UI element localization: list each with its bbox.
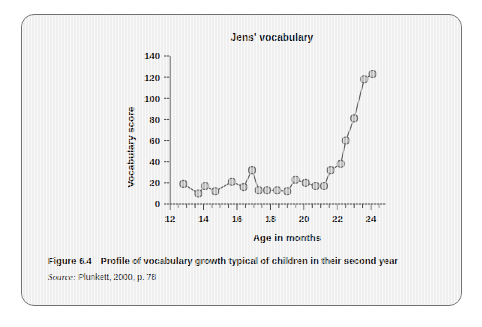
data-point-marker — [284, 188, 291, 195]
data-point-marker — [312, 183, 319, 190]
x-tick-label: 14 — [198, 213, 209, 224]
data-point-marker — [327, 167, 334, 174]
data-point-marker — [249, 167, 256, 174]
y-tick-label: 100 — [144, 93, 160, 104]
figure-caption: Figure 6.4Profile of vocabulary growth t… — [48, 255, 448, 266]
y-tick-label: 40 — [149, 156, 160, 167]
data-point-marker — [342, 137, 349, 144]
data-point-marker — [351, 115, 358, 122]
y-tick-label: 20 — [149, 177, 160, 188]
data-point-marker — [255, 187, 262, 194]
source-text: Plunkett, 2000, p. 78 — [78, 272, 156, 282]
data-point-marker — [302, 179, 309, 186]
x-axis-title: Age in months — [253, 232, 322, 243]
x-tick-label: 16 — [232, 213, 243, 224]
data-point-marker — [202, 183, 209, 190]
figure-caption-text: Profile of vocabulary growth typical of … — [101, 255, 398, 266]
y-tick-label: 120 — [144, 72, 160, 83]
y-axis-title: Vocabulary score — [125, 106, 136, 188]
data-point-marker — [321, 183, 328, 190]
data-point-marker — [240, 184, 247, 191]
x-axis: 12141618202224 — [165, 204, 386, 224]
data-point-marker — [292, 176, 299, 183]
data-point-marker — [369, 70, 376, 77]
vocabulary-line-chart: Jens' vocabulary Vocabulary score Age in… — [22, 15, 462, 247]
data-point-marker — [361, 76, 368, 83]
data-point-marker — [337, 160, 344, 167]
data-point-marker — [180, 180, 187, 187]
figure-card: Jens' vocabulary Vocabulary score Age in… — [21, 14, 462, 306]
chart-plot-region: Jens' vocabulary Vocabulary score Age in… — [22, 15, 462, 247]
data-point-marker — [274, 187, 281, 194]
chart-title: Jens' vocabulary — [231, 32, 314, 43]
y-tick-label: 0 — [155, 198, 160, 209]
x-tick-label: 12 — [165, 213, 176, 224]
data-point-marker — [228, 178, 235, 185]
x-tick-label: 20 — [299, 213, 310, 224]
data-series-markers — [180, 70, 376, 196]
y-tick-label: 80 — [149, 114, 160, 125]
x-tick-label: 24 — [366, 213, 377, 224]
source-label: Source: — [48, 272, 76, 282]
data-point-marker — [195, 190, 202, 197]
x-tick-label: 22 — [332, 213, 343, 224]
x-axis-ticks: 12141618202224 — [165, 204, 380, 224]
figure-caption-block: Figure 6.4Profile of vocabulary growth t… — [48, 255, 448, 282]
y-tick-label: 60 — [149, 135, 160, 146]
x-tick-label: 18 — [265, 213, 276, 224]
y-axis: 020406080100120140 — [144, 50, 170, 209]
data-point-marker — [264, 187, 271, 194]
data-series-line — [183, 74, 372, 193]
y-tick-label: 140 — [144, 50, 160, 61]
data-point-marker — [212, 188, 219, 195]
y-axis-ticks: 020406080100120140 — [144, 50, 170, 209]
figure-source: Source: Plunkett, 2000, p. 78 — [48, 272, 448, 282]
figure-number: Figure 6.4 — [48, 255, 92, 266]
